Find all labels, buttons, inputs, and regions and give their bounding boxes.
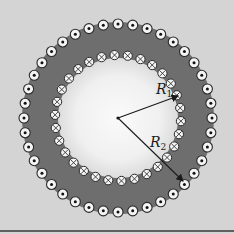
wire-out-of-page-icon: [197, 70, 207, 80]
wire-out-of-page-icon: [206, 128, 216, 138]
wire-out-of-page-icon: [58, 37, 68, 47]
wire-out-of-page-icon: [24, 84, 34, 94]
wire-out-of-page-icon: [19, 113, 29, 123]
wire-out-of-page-icon: [98, 206, 108, 216]
wire-into-page-icon: [172, 91, 181, 100]
wire-out-of-page-icon: [128, 206, 138, 216]
wire-into-page-icon: [142, 169, 151, 178]
wire-into-page-icon: [57, 85, 66, 94]
wire-out-of-page-icon: [189, 58, 199, 68]
wire-out-of-page-icon: [37, 168, 47, 178]
wire-into-page-icon: [85, 57, 94, 66]
wire-into-page-icon: [55, 136, 64, 145]
wire-out-of-page-icon: [24, 142, 34, 152]
wire-into-page-icon: [69, 158, 78, 167]
wire-into-page-icon: [79, 166, 88, 175]
wire-into-page-icon: [117, 176, 126, 185]
wire-out-of-page-icon: [179, 179, 189, 189]
wire-into-page-icon: [158, 69, 167, 78]
wire-into-page-icon: [130, 174, 139, 183]
wire-out-of-page-icon: [29, 156, 39, 166]
wire-out-of-page-icon: [156, 197, 166, 207]
wire-out-of-page-icon: [128, 20, 138, 30]
wire-out-of-page-icon: [202, 142, 212, 152]
wire-out-of-page-icon: [168, 37, 178, 47]
wire-into-page-icon: [51, 123, 60, 132]
wire-into-page-icon: [64, 74, 73, 83]
wire-into-page-icon: [53, 97, 62, 106]
wire-out-of-page-icon: [98, 20, 108, 30]
wire-out-of-page-icon: [113, 19, 123, 29]
wire-into-page-icon: [170, 142, 179, 151]
wire-into-page-icon: [174, 130, 183, 139]
wire-out-of-page-icon: [84, 24, 94, 34]
wire-into-page-icon: [74, 65, 83, 74]
toroid-figure: R1R2: [0, 0, 234, 234]
wire-into-page-icon: [166, 79, 175, 88]
wire-into-page-icon: [162, 153, 171, 162]
wire-out-of-page-icon: [29, 70, 39, 80]
wire-out-of-page-icon: [207, 113, 217, 123]
wire-out-of-page-icon: [47, 179, 57, 189]
wire-out-of-page-icon: [70, 197, 80, 207]
wire-out-of-page-icon: [58, 189, 68, 199]
wire-into-page-icon: [110, 50, 119, 59]
wire-out-of-page-icon: [142, 202, 152, 212]
wire-out-of-page-icon: [168, 189, 178, 199]
wire-out-of-page-icon: [142, 24, 152, 34]
wire-into-page-icon: [61, 148, 70, 157]
wire-into-page-icon: [50, 110, 59, 119]
wire-into-page-icon: [148, 60, 157, 69]
wire-into-page-icon: [97, 53, 106, 62]
wire-out-of-page-icon: [197, 156, 207, 166]
wire-into-page-icon: [104, 176, 113, 185]
wire-out-of-page-icon: [202, 84, 212, 94]
wire-out-of-page-icon: [70, 29, 80, 39]
wire-out-of-page-icon: [20, 128, 30, 138]
wire-into-page-icon: [91, 172, 100, 181]
wire-out-of-page-icon: [206, 98, 216, 108]
wire-into-page-icon: [123, 51, 132, 60]
wire-into-page-icon: [136, 55, 145, 64]
wire-into-page-icon: [153, 162, 162, 171]
toroid-diagram: R1R2: [0, 0, 234, 234]
wire-into-page-icon: [176, 103, 185, 112]
wire-out-of-page-icon: [84, 202, 94, 212]
wire-out-of-page-icon: [189, 168, 199, 178]
wire-out-of-page-icon: [179, 47, 189, 57]
wire-out-of-page-icon: [47, 47, 57, 57]
wire-out-of-page-icon: [37, 58, 47, 68]
wire-into-page-icon: [176, 117, 185, 126]
wire-out-of-page-icon: [20, 98, 30, 108]
wire-out-of-page-icon: [156, 29, 166, 39]
wire-out-of-page-icon: [113, 207, 123, 217]
